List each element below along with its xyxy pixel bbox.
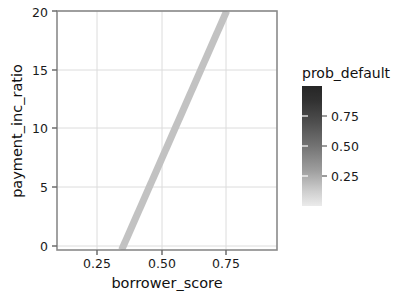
legend-tick-label-025: 0.25 (331, 169, 359, 184)
x-tick-label-3: 0.75 (212, 256, 240, 271)
legend-title: prob_default (302, 65, 391, 81)
y-tick-label-15: 15 (32, 63, 48, 78)
legend-tick-label-050: 0.50 (331, 139, 359, 154)
x-tick-label-2: 0.50 (148, 256, 176, 271)
y-axis-title: payment_inc_ratio (9, 64, 25, 198)
x-axis-title: borrower_score (111, 275, 222, 291)
x-tick-label-1: 0.25 (83, 256, 111, 271)
scatter-plot-figure: 0.25 0.50 0.75 0 5 10 15 20 borrower_sco… (0, 0, 400, 298)
y-tick-label-20: 20 (32, 5, 48, 20)
plot-svg: 0.25 0.50 0.75 0 5 10 15 20 borrower_sco… (0, 0, 400, 298)
plot-canvas (57, 11, 277, 250)
y-tick-label-5: 5 (40, 180, 48, 195)
y-tick-label-0: 0 (40, 239, 48, 254)
y-tick-label-10: 10 (32, 121, 48, 136)
legend-tick-label-075: 0.75 (331, 109, 359, 124)
